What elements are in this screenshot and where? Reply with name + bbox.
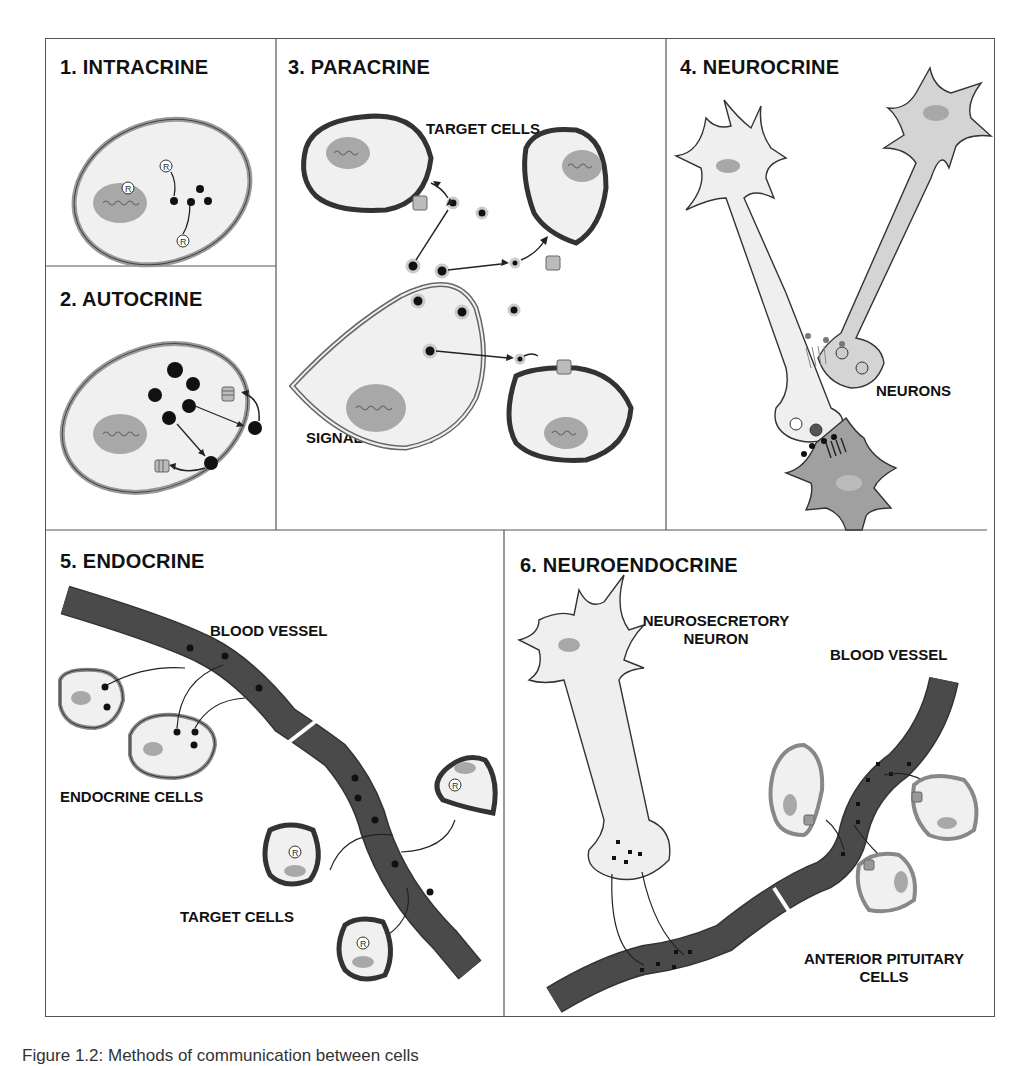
svg-text:R: R	[360, 939, 367, 949]
panel-neurocrine: 4. NEUROCRINE NEURONS	[666, 38, 995, 530]
paracrine-illustration	[276, 38, 666, 530]
panel-neuroendocrine: 6. NEUROENDOCRINE NEUROSECRETORY NEURON …	[504, 530, 995, 1017]
neurocrine-illustration	[666, 38, 995, 530]
panel-paracrine: 3. PARACRINE TARGET CELLS SIGNALING CELL	[276, 38, 666, 530]
intracrine-cell-illustration: R R R	[45, 38, 276, 266]
svg-text:R: R	[125, 184, 132, 194]
figure-caption: Figure 1.2: Methods of communication bet…	[22, 1046, 419, 1066]
svg-text:R: R	[180, 237, 187, 247]
svg-text:R: R	[452, 781, 459, 791]
neuroendocrine-illustration	[504, 530, 995, 1017]
panel-intracrine: 1. INTRACRINE R R R	[45, 38, 276, 266]
svg-text:R: R	[163, 162, 170, 172]
panel-autocrine: 2. AUTOCRINE	[45, 266, 276, 530]
panel-endocrine: 5. ENDOCRINE BLOOD VESSEL ENDOCRINE CELL…	[45, 530, 504, 1017]
autocrine-cell-illustration	[45, 266, 276, 530]
svg-text:R: R	[292, 848, 299, 858]
endocrine-illustration: R R R	[45, 530, 504, 1017]
